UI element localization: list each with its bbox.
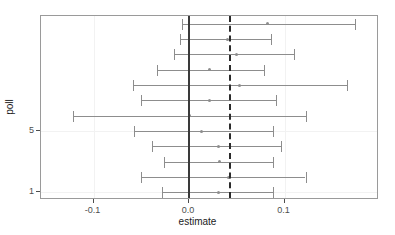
error-bar-cap xyxy=(271,34,272,45)
error-bar-cap xyxy=(157,65,158,76)
error-bar-cap xyxy=(174,49,175,60)
estimate-point xyxy=(235,53,238,56)
estimate-point xyxy=(200,130,203,133)
error-bar xyxy=(174,54,294,55)
error-bar-cap xyxy=(273,157,274,168)
error-bar-cap xyxy=(294,49,295,60)
error-bar-cap xyxy=(164,157,165,168)
error-bar-cap xyxy=(180,34,181,45)
error-bar-cap xyxy=(141,95,142,106)
error-bar-cap xyxy=(141,172,142,183)
gridline-vertical xyxy=(94,16,95,198)
error-bar-cap xyxy=(347,80,348,91)
estimate-point xyxy=(217,145,220,148)
estimate-point xyxy=(208,99,211,102)
error-bar xyxy=(134,131,273,132)
estimate-point xyxy=(217,191,220,194)
y-axis-tick xyxy=(36,130,40,131)
y-axis-tick xyxy=(36,191,40,192)
x-axis-tick xyxy=(93,199,94,203)
error-bar-cap xyxy=(182,19,183,30)
error-bar-cap xyxy=(273,126,274,137)
zero-line xyxy=(188,16,190,198)
error-bar xyxy=(141,177,305,178)
error-bar-cap xyxy=(73,111,74,122)
estimate-point xyxy=(218,160,221,163)
gridline-vertical xyxy=(285,16,286,198)
error-bar-cap xyxy=(306,111,307,122)
x-axis-tick xyxy=(284,199,285,203)
error-bar-cap xyxy=(273,187,274,198)
error-bar-cap xyxy=(134,126,135,137)
y-axis-title: poll xyxy=(4,99,15,115)
error-bar-cap xyxy=(306,172,307,183)
x-axis-tick-label: 0.1 xyxy=(277,205,290,215)
error-bar-cap xyxy=(162,187,163,198)
error-bar-cap xyxy=(152,141,153,152)
error-bar-cap xyxy=(133,80,134,91)
forest-plot: poll estimate -0.10.00.115 xyxy=(0,0,395,235)
y-axis-tick-label: 1 xyxy=(18,186,34,196)
x-axis-tick-label: -0.1 xyxy=(85,205,101,215)
plot-panel xyxy=(40,15,378,199)
error-bar-cap xyxy=(264,65,265,76)
estimate-point xyxy=(266,22,269,25)
error-bar-cap xyxy=(355,19,356,30)
y-axis-tick-label: 5 xyxy=(18,125,34,135)
error-bar-cap xyxy=(281,141,282,152)
error-bar-cap xyxy=(276,95,277,106)
x-axis-title: estimate xyxy=(0,216,395,227)
x-axis-tick xyxy=(188,199,189,203)
pooled-estimate-line xyxy=(229,16,231,198)
x-axis-tick-label: 0.0 xyxy=(182,205,195,215)
estimate-point xyxy=(238,84,241,87)
estimate-point xyxy=(208,68,211,71)
